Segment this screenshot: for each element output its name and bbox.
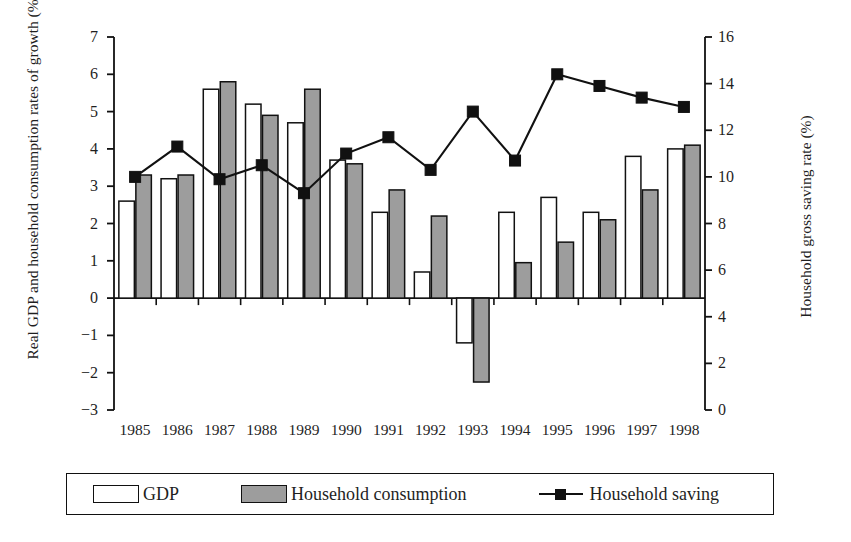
right-tick-label: 6 bbox=[718, 262, 748, 278]
bar-household-consumption-1995 bbox=[558, 242, 574, 298]
x-tick-label-1998: 1998 bbox=[661, 421, 707, 439]
bar-gdp-1995 bbox=[541, 197, 557, 298]
legend-square-marker-icon bbox=[555, 489, 566, 500]
bar-household-consumption-1986 bbox=[178, 175, 194, 298]
saving-marker-1985 bbox=[130, 171, 141, 182]
saving-marker-1998 bbox=[678, 101, 689, 112]
saving-marker-1991 bbox=[383, 132, 394, 143]
saving-marker-1994 bbox=[510, 155, 521, 166]
chart-legend: GDP Household consumption Household savi… bbox=[66, 473, 774, 515]
x-tick-label-1990: 1990 bbox=[323, 421, 369, 439]
left-tick-label: 1 bbox=[72, 253, 98, 269]
bar-household-consumption-1998 bbox=[685, 145, 701, 298]
bar-household-consumption-1990 bbox=[347, 164, 363, 298]
bar-gdp-1987 bbox=[203, 89, 219, 298]
bar-gdp-1989 bbox=[288, 123, 304, 298]
saving-marker-1995 bbox=[552, 69, 563, 80]
x-tick-label-1989: 1989 bbox=[281, 421, 327, 439]
bar-gdp-1990 bbox=[330, 160, 346, 298]
saving-marker-1987 bbox=[214, 174, 225, 185]
legend-swatch-gdp-bar-icon bbox=[93, 485, 139, 503]
legend-label-household-saving: Household saving bbox=[590, 484, 720, 505]
bar-gdp-1985 bbox=[119, 201, 135, 298]
legend-label-gdp: GDP bbox=[143, 484, 179, 505]
x-tick-label-1992: 1992 bbox=[408, 421, 454, 439]
legend-item-gdp: GDP bbox=[93, 484, 179, 505]
saving-marker-1997 bbox=[636, 92, 647, 103]
saving-marker-1996 bbox=[594, 80, 605, 91]
x-tick-label-1986: 1986 bbox=[154, 421, 200, 439]
right-tick-label: 10 bbox=[718, 169, 748, 185]
legend-swatch-saving-line-icon bbox=[537, 485, 585, 503]
x-tick-label-1993: 1993 bbox=[450, 421, 496, 439]
left-tick-label: 5 bbox=[72, 104, 98, 120]
bars bbox=[119, 82, 700, 382]
x-tick-label-1996: 1996 bbox=[576, 421, 622, 439]
left-tick-label: 6 bbox=[72, 66, 98, 82]
bar-gdp-1992 bbox=[414, 272, 430, 298]
bar-gdp-1991 bbox=[372, 212, 388, 298]
x-tick-label-1991: 1991 bbox=[365, 421, 411, 439]
x-tick-label-1987: 1987 bbox=[197, 421, 243, 439]
right-tick-label: 16 bbox=[718, 29, 748, 45]
right-tick-label: 8 bbox=[718, 216, 748, 232]
right-tick-label: 2 bbox=[718, 355, 748, 371]
legend-item-household-saving: Household saving bbox=[537, 484, 720, 505]
left-tick-label: 4 bbox=[72, 141, 98, 157]
bar-gdp-1997 bbox=[625, 156, 641, 298]
saving-marker-1990 bbox=[341, 148, 352, 159]
right-tick-label: 4 bbox=[718, 309, 748, 325]
left-tick-label: −3 bbox=[72, 402, 98, 418]
right-tick-label: 0 bbox=[718, 402, 748, 418]
x-tick-label-1997: 1997 bbox=[619, 421, 665, 439]
bar-household-consumption-1992 bbox=[431, 216, 447, 298]
bar-household-consumption-1994 bbox=[516, 263, 532, 298]
bar-household-consumption-1996 bbox=[600, 220, 616, 298]
legend-item-household-consumption: Household consumption bbox=[241, 484, 467, 505]
bar-household-consumption-1987 bbox=[220, 82, 236, 298]
saving-marker-1992 bbox=[425, 164, 436, 175]
right-tick-label: 12 bbox=[718, 122, 748, 138]
x-tick-label-1995: 1995 bbox=[534, 421, 580, 439]
left-tick-label: 3 bbox=[72, 178, 98, 194]
bar-household-consumption-1997 bbox=[642, 190, 658, 298]
saving-marker-1993 bbox=[467, 106, 478, 117]
chart-figure: Real GDP and household consumption rates… bbox=[0, 0, 851, 542]
bar-household-consumption-1993 bbox=[474, 298, 490, 382]
bar-gdp-1986 bbox=[161, 179, 177, 298]
saving-marker-1989 bbox=[298, 188, 309, 199]
left-tick-label: −1 bbox=[72, 327, 98, 343]
legend-swatch-consumption-bar-icon bbox=[241, 485, 287, 503]
left-tick-label: 0 bbox=[72, 290, 98, 306]
saving-marker-1988 bbox=[256, 160, 267, 171]
right-tick-label: 14 bbox=[718, 76, 748, 92]
x-tick-label-1985: 1985 bbox=[112, 421, 158, 439]
bar-gdp-1996 bbox=[583, 212, 599, 298]
x-tick-label-1988: 1988 bbox=[239, 421, 285, 439]
left-tick-label: 2 bbox=[72, 216, 98, 232]
left-tick-label: 7 bbox=[72, 29, 98, 45]
saving-marker-1986 bbox=[172, 141, 183, 152]
bar-gdp-1998 bbox=[668, 149, 684, 298]
bar-gdp-1988 bbox=[246, 104, 262, 298]
bar-household-consumption-1985 bbox=[136, 175, 152, 298]
x-tick-label-1994: 1994 bbox=[492, 421, 538, 439]
bar-household-consumption-1991 bbox=[389, 190, 405, 298]
left-tick-label: −2 bbox=[72, 365, 98, 381]
legend-label-household-consumption: Household consumption bbox=[291, 484, 467, 505]
bar-household-consumption-1988 bbox=[263, 115, 279, 298]
bar-gdp-1993 bbox=[457, 298, 473, 343]
bar-gdp-1994 bbox=[499, 212, 515, 298]
